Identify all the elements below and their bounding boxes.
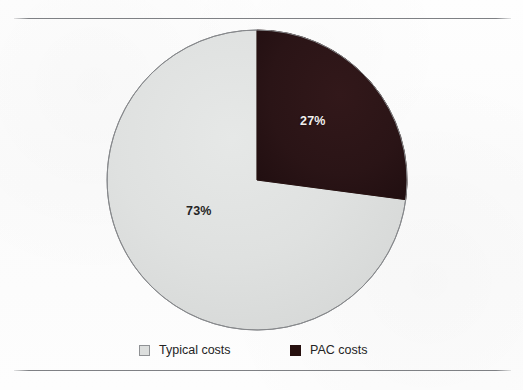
pie-chart: 27% 73% <box>0 0 523 340</box>
pie-chart-svg <box>0 0 523 340</box>
pie-slice-label-pac-costs: 27% <box>300 114 326 128</box>
legend-item-pac-costs[interactable]: PAC costs <box>290 341 367 359</box>
pie-slice-label-typical-costs: 73% <box>186 204 212 218</box>
legend-label-pac-costs: PAC costs <box>310 344 367 357</box>
legend-swatch-pac-costs-icon <box>290 345 301 356</box>
bottom-divider-rule <box>14 370 511 371</box>
chart-legend: Typical costs PAC costs <box>0 341 523 361</box>
legend-item-typical-costs[interactable]: Typical costs <box>139 341 231 359</box>
pie-slice-pac-costs <box>257 30 407 200</box>
legend-label-typical-costs: Typical costs <box>159 344 231 357</box>
legend-swatch-typical-costs-icon <box>139 345 150 356</box>
